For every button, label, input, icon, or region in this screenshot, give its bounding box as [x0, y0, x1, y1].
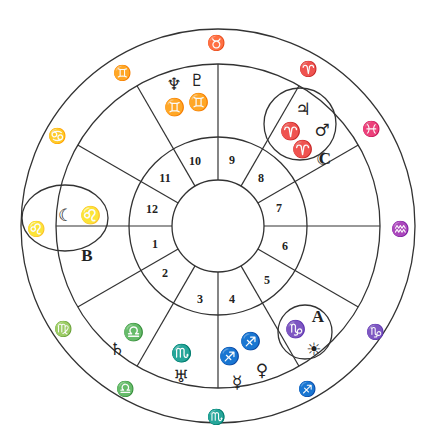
- highlight-label-b: B: [81, 246, 92, 265]
- house-number-9: 9: [229, 153, 235, 167]
- aquarius-sign-icon: ♒: [391, 220, 410, 238]
- natal-chart-wheel: 123456789101112 ♉♈♓♒♑♐♏♎♍♌♋♊ ♆♇♊♊♃♂♈♈☾☾♌…: [0, 0, 437, 447]
- cancer-sign-icon: ♋: [48, 127, 67, 145]
- house-number-4: 4: [229, 292, 235, 306]
- house-number-11: 11: [159, 171, 170, 185]
- house-number-1: 1: [152, 237, 158, 251]
- sagittarius-sign-icon: ♐: [298, 380, 317, 398]
- house-number-6: 6: [282, 239, 288, 253]
- virgo-sign-icon: ♍: [54, 320, 73, 338]
- venus-icon: ♀: [256, 360, 268, 380]
- saturn-icon: ♄: [109, 339, 124, 359]
- aries-sign-icon: ♈: [299, 60, 318, 78]
- mercury-icon: ☿: [232, 372, 242, 392]
- house-number-3: 3: [197, 292, 203, 306]
- house-number-5: 5: [264, 273, 270, 287]
- libra-sign-saturn-icon: ♎: [123, 322, 144, 342]
- sagittarius-sign-1-icon: ♐: [219, 346, 240, 366]
- house-number-7: 7: [276, 201, 282, 215]
- house-cusp-5: [241, 266, 299, 366]
- jupiter-icon: ♃: [295, 99, 310, 119]
- gemini-sign-pluto-icon: ♊: [188, 92, 209, 112]
- uranus-icon: ♅: [173, 366, 188, 386]
- aries-sign-1-icon: ♈: [280, 121, 301, 141]
- mars-icon: ♂: [314, 120, 329, 140]
- scorpio-sign-icon: ♏: [207, 408, 226, 426]
- pisces-sign-icon: ♓: [362, 120, 381, 138]
- house-number-2: 2: [162, 266, 168, 280]
- house-cusp-6: [258, 249, 358, 307]
- aries-sign-2-icon: ♈: [292, 139, 313, 159]
- house-numbers: 123456789101112: [146, 153, 288, 306]
- libra-sign-icon: ♎: [116, 380, 135, 398]
- moon-icon: ☾: [58, 205, 73, 225]
- house-number-12: 12: [146, 202, 158, 216]
- pluto-icon: ♇: [189, 70, 204, 90]
- leo-sign-icon: ♌: [80, 205, 101, 225]
- capricorn-sign-icon: ♑: [366, 323, 385, 341]
- sagittarius-sign-2-icon: ♐: [240, 331, 261, 351]
- house-number-8: 8: [258, 171, 264, 185]
- house-number-10: 10: [189, 154, 201, 168]
- gemini-sign-neptune-icon: ♊: [164, 97, 185, 117]
- neptune-icon: ♆: [166, 74, 181, 94]
- gemini-sign-icon: ♊: [113, 64, 132, 82]
- leo-sign-icon: ♌: [27, 220, 46, 238]
- highlight-label-a: A: [312, 307, 325, 326]
- highlight-label-c: C: [319, 149, 331, 168]
- scorpio-sign-uranus-icon: ♏: [171, 343, 192, 363]
- inner-ring: [172, 180, 264, 272]
- planet-placements: ♆♇♊♊♃♂♈♈☾☾♌♎♄♏♅♐♐☿♀♑☀: [58, 70, 331, 392]
- capricorn-sign-sun-icon: ♑: [285, 319, 306, 339]
- taurus-sign-icon: ♉: [207, 34, 226, 52]
